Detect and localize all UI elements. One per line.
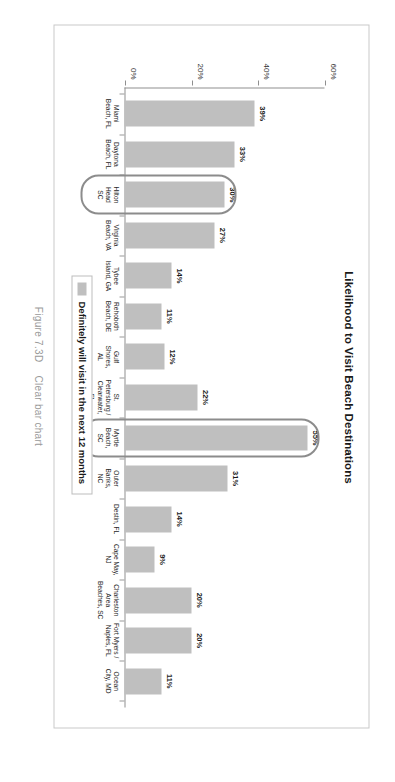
bar-value-label: 11%: [164, 309, 173, 324]
y-tick-mark: [325, 80, 326, 85]
bar-value-label: 27%: [217, 227, 226, 242]
bar-slot: 27%: [124, 215, 324, 256]
category-label-line: Head: [103, 174, 111, 215]
category-label-line: Naples, FL: [103, 620, 111, 661]
bar: 20%: [124, 627, 191, 653]
category-label-line: Ocean: [111, 660, 119, 701]
category-label-line: NC: [94, 458, 102, 499]
plot-area: 39%33%30%27%14%11%12%22%55%31%14%9%20%20…: [124, 87, 324, 707]
category-label-line: Beach, FL: [103, 134, 111, 175]
bar: 9%: [124, 546, 154, 572]
bar-series: 39%33%30%27%14%11%12%22%55%31%14%9%20%20…: [124, 87, 324, 707]
category-label-line: Clearwater,: [94, 377, 102, 418]
category-label-line: AL: [94, 336, 102, 377]
bar-value-label: 31%: [230, 471, 239, 486]
bar-value-label: 55%: [310, 430, 319, 445]
category-label-line: Banks,: [103, 458, 111, 499]
category-label: Destin, FL: [76, 498, 122, 539]
category-label: Cape May,NJ: [76, 539, 122, 580]
category-label-line: Gulf: [111, 336, 119, 377]
y-tick-label: 0%: [129, 67, 138, 79]
chart-title: Likelihood to Visit Beach Destinations: [342, 25, 354, 729]
bar: 30%: [124, 181, 224, 207]
bar: 14%: [124, 506, 171, 532]
bar: 33%: [124, 141, 234, 167]
category-label-line: Outer: [111, 458, 119, 499]
category-label-line: City, MD: [103, 660, 111, 701]
bar-value-label: 20%: [194, 633, 203, 648]
category-label-line: Beach,: [103, 417, 111, 458]
chart-frame: Likelihood to Visit Beach Destinations 0…: [53, 24, 369, 728]
bar: 11%: [124, 668, 161, 694]
category-label: OceanCity, MD: [76, 660, 122, 701]
bar-value-label: 39%: [257, 106, 266, 121]
bar-slot: 9%: [124, 539, 324, 580]
y-axis-ticks: 0%20%40%60%: [124, 49, 324, 85]
rotated-figure-canvas: Likelihood to Visit Beach Destinations 0…: [0, 0, 395, 782]
category-label-line: NJ: [103, 539, 111, 580]
figure-page: Likelihood to Visit Beach Destinations 0…: [0, 0, 395, 782]
bar: 12%: [124, 343, 164, 369]
bar-value-label: 22%: [200, 389, 209, 404]
category-label-line: SC: [94, 417, 102, 458]
category-label-line: Area: [103, 579, 111, 620]
bar-slot: 14%: [124, 498, 324, 539]
category-label: MiamiBeach, FL: [76, 93, 122, 134]
category-label-line: Beaches, SC: [94, 579, 102, 620]
legend-swatch-icon: [77, 282, 86, 295]
bar: 14%: [124, 262, 171, 288]
bar-value-label: 20%: [194, 592, 203, 607]
category-label-line: Daytona: [111, 134, 119, 175]
category-label-line: Myrtle: [111, 417, 119, 458]
category-label: Fort Myers /Naples, FL: [76, 620, 122, 661]
category-label: DaytonaBeach, FL: [76, 134, 122, 175]
category-label-line: Petersburg /: [103, 377, 111, 418]
bar: 11%: [124, 303, 161, 329]
bar: 27%: [124, 222, 214, 248]
bar-slot: 55%: [124, 417, 324, 458]
category-label-line: Rehoboth: [111, 296, 119, 337]
bar-slot: 20%: [124, 620, 324, 661]
category-label-line: Beach, DE: [103, 296, 111, 337]
bar: 55%: [124, 425, 307, 451]
category-label-line: Beach, FL: [103, 93, 111, 134]
category-label-line: Virginia: [111, 215, 119, 256]
bar: 39%: [124, 100, 254, 126]
bar-slot: 22%: [124, 377, 324, 418]
category-label-line: St.: [111, 377, 119, 418]
bar-slot: 39%: [124, 93, 324, 134]
bar-slot: 11%: [124, 660, 324, 701]
category-label: VirginiaBeach, VA: [76, 215, 122, 256]
bar-slot: 14%: [124, 255, 324, 296]
bar-slot: 11%: [124, 296, 324, 337]
bar-slot: 20%: [124, 579, 324, 620]
category-label-line: Fort Myers /: [111, 620, 119, 661]
category-label-line: Destin, FL: [111, 498, 119, 539]
category-label: HiltonHeadSC: [76, 174, 122, 215]
y-tick-mark: [125, 80, 126, 85]
bar: 31%: [124, 465, 227, 491]
category-label: CharlestonAreaBeaches, SC: [76, 579, 122, 620]
bar-value-label: 11%: [164, 673, 173, 688]
category-label-line: Miami: [111, 93, 119, 134]
category-label-line: Hilton: [111, 174, 119, 215]
bar-value-label: 12%: [167, 349, 176, 364]
category-label-line: Charleston: [111, 579, 119, 620]
category-label-line: Tybee: [111, 255, 119, 296]
category-label-line: Shores,: [103, 336, 111, 377]
y-tick-label: 60%: [329, 63, 338, 79]
bar-slot: 12%: [124, 336, 324, 377]
y-tick-label: 20%: [195, 63, 204, 79]
legend-label: Definitely will visit in the next 12 mon…: [76, 301, 87, 484]
figure-caption: Figure 7.3D Clear bar chart: [32, 24, 43, 728]
category-label-line: Beach, VA: [103, 215, 111, 256]
category-label-line: Island, GA: [103, 255, 111, 296]
bar-value-label: 14%: [174, 511, 183, 526]
bar-slot: 31%: [124, 458, 324, 499]
bar: 20%: [124, 587, 191, 613]
bar-slot: 33%: [124, 134, 324, 175]
category-label-line: SC: [94, 174, 102, 215]
bar-value-label: 9%: [157, 554, 166, 565]
bar-value-label: 33%: [237, 146, 246, 161]
bar: 22%: [124, 384, 197, 410]
